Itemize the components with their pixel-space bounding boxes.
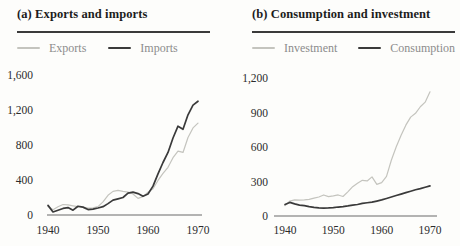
consumption-line-swatch-icon <box>358 47 381 50</box>
y-axis-tick-label: 0 <box>27 209 33 221</box>
y-axis-tick-label: 1,600 <box>7 69 33 82</box>
y-axis-tick-label: 800 <box>16 139 34 151</box>
title-rule <box>17 31 210 33</box>
legend-label-exports: Exports <box>49 41 86 56</box>
exports-imports-line-chart: 04008001,2001,6001940195019601970 <box>0 60 230 246</box>
consumption-investment-line-chart: 03006009001,2001940195019601970 <box>230 60 460 246</box>
investment-series-line <box>285 92 430 206</box>
x-axis-tick-label: 1960 <box>370 224 393 236</box>
chart-title: (a) Exports and imports <box>17 7 147 22</box>
x-axis-tick-label: 1950 <box>87 224 110 236</box>
exports-line-swatch-icon <box>17 47 40 49</box>
chart-panel-consumption-investment: (b) Consumption and investment Investmen… <box>230 0 460 246</box>
x-axis-tick-label: 1940 <box>274 224 297 236</box>
imports-series-line <box>48 101 198 212</box>
y-axis-tick-label: 0 <box>262 210 268 222</box>
legend-label-investment: Investment <box>284 41 337 56</box>
legend: Exports Imports <box>17 41 178 55</box>
y-axis-tick-label: 1,200 <box>242 72 268 85</box>
y-axis-tick-label: 400 <box>16 174 34 186</box>
y-axis-tick-label: 900 <box>251 107 269 119</box>
legend-label-imports: Imports <box>140 41 177 56</box>
investment-line-swatch-icon <box>252 47 275 49</box>
consumption-series-line <box>285 186 430 208</box>
title-rule <box>252 31 455 33</box>
x-axis-tick-label: 1970 <box>418 224 441 236</box>
x-axis-tick-label: 1960 <box>137 224 160 236</box>
legend: Investment Consumption <box>252 41 455 55</box>
x-axis-tick-label: 1940 <box>37 224 60 236</box>
chart-panel-exports-imports: (a) Exports and imports Exports Imports … <box>0 0 230 246</box>
imports-line-swatch-icon <box>108 47 131 50</box>
y-axis-tick-label: 600 <box>251 141 269 153</box>
x-axis-tick-label: 1950 <box>322 224 345 236</box>
y-axis-tick-label: 1,200 <box>7 104 33 117</box>
chart-title: (b) Consumption and investment <box>252 7 430 22</box>
x-axis-tick-label: 1970 <box>187 224 210 236</box>
y-axis-tick-label: 300 <box>251 176 269 188</box>
legend-label-consumption: Consumption <box>390 41 455 56</box>
